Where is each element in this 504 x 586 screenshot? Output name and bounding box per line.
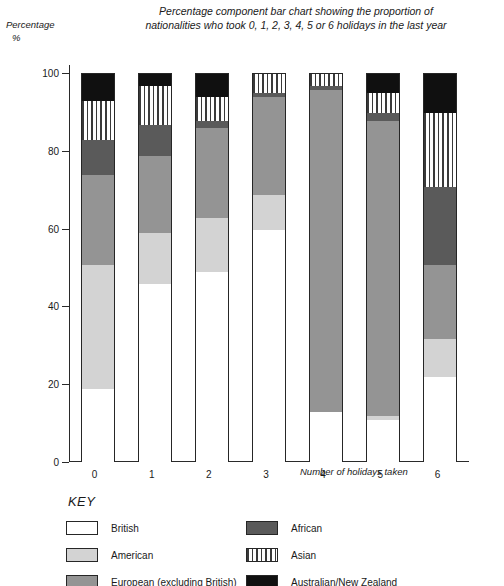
x-axis-label: Number of holidays taken <box>300 466 500 477</box>
y-tick-label: 80 <box>48 145 59 156</box>
bar-segment <box>196 272 228 463</box>
legend-item: African <box>246 516 397 540</box>
bar-segment <box>139 233 171 284</box>
y-tick-label: 40 <box>48 301 59 312</box>
stacked-bar <box>252 73 286 462</box>
bar-segment <box>82 74 114 101</box>
bar-segment <box>367 113 399 121</box>
bar-segment <box>82 389 114 463</box>
bar-segment <box>139 156 171 234</box>
bar-segment <box>367 420 399 463</box>
bar-segment <box>424 113 456 187</box>
legend-column-right: AfricanAsianAustralian/New Zealand <box>246 516 397 586</box>
bar-segment <box>253 74 285 93</box>
y-tick-mark <box>62 229 69 230</box>
x-tick-label: 1 <box>132 469 172 480</box>
ausnz-swatch <box>246 575 278 586</box>
legend-item-label: African <box>291 523 322 534</box>
bar-segment <box>310 412 342 463</box>
y-axis-unit: % <box>6 31 68 44</box>
legend-item-label: Asian <box>291 550 316 561</box>
asian-swatch <box>246 548 278 562</box>
legend-item: American <box>66 543 237 567</box>
legend-item: British <box>66 516 237 540</box>
y-axis-label: Percentage % <box>6 18 68 44</box>
bar-segment <box>367 74 399 93</box>
bar-segment <box>196 128 228 217</box>
y-tick-mark <box>62 151 69 152</box>
y-tick-label: 100 <box>42 68 59 79</box>
bar-segment <box>82 101 114 140</box>
y-tick-label: 20 <box>48 379 59 390</box>
y-tick-mark <box>62 462 69 463</box>
x-tick-label: 3 <box>246 469 286 480</box>
european-swatch <box>66 575 98 586</box>
american-swatch <box>66 548 98 562</box>
bar-segment <box>82 175 114 264</box>
bar-segment <box>196 121 228 129</box>
bar-segment <box>367 121 399 417</box>
bar-segment <box>253 97 285 194</box>
bar-segment <box>424 339 456 378</box>
legend-column-left: BritishAmericanEuropean (excluding Briti… <box>66 516 237 586</box>
bar-segment <box>424 74 456 113</box>
y-tick-label: 60 <box>48 223 59 234</box>
bar-segment <box>139 284 171 463</box>
bar-segment <box>253 195 285 230</box>
bar-segment <box>310 74 342 86</box>
legend-title: KEY <box>68 494 95 509</box>
legend-item: Australian/New Zealand <box>246 570 397 586</box>
legend-item-label: British <box>111 523 139 534</box>
bar-segment <box>424 377 456 463</box>
bar-segment <box>424 187 456 265</box>
chart-title-line-1: Percentage component bar chart showing t… <box>96 4 496 18</box>
y-tick-label: 0 <box>53 457 59 468</box>
y-tick-mark <box>62 384 69 385</box>
bar-segment <box>196 218 228 272</box>
x-tick-label: 0 <box>75 469 115 480</box>
bar-segment <box>424 265 456 339</box>
x-tick-label: 2 <box>189 469 229 480</box>
chart-page: Percentage component bar chart showing t… <box>0 0 504 586</box>
british-swatch <box>66 521 98 535</box>
legend-item: Asian <box>246 543 397 567</box>
legend-item-label: American <box>111 550 153 561</box>
plot-area: 020406080100 0123456 <box>69 73 469 462</box>
stacked-bar <box>423 73 457 462</box>
y-axis-line <box>69 65 70 462</box>
bar-segment <box>82 140 114 175</box>
chart-title: Percentage component bar chart showing t… <box>96 4 496 32</box>
stacked-bar <box>195 73 229 462</box>
bar-segment <box>196 97 228 120</box>
legend: KEY BritishAmericanEuropean (excluding B… <box>0 494 504 586</box>
legend-item-label: European (excluding British) <box>111 577 237 586</box>
bar-segment <box>139 86 171 125</box>
bar-segment <box>139 74 171 86</box>
bar-segment <box>82 265 114 389</box>
african-swatch <box>246 521 278 535</box>
y-tick-mark <box>62 73 69 74</box>
stacked-bar <box>366 73 400 462</box>
stacked-bar <box>138 73 172 462</box>
bar-segment <box>310 90 342 413</box>
bar-segment <box>367 93 399 112</box>
bar-segment <box>253 230 285 463</box>
stacked-bar <box>81 73 115 462</box>
bar-segment <box>139 125 171 156</box>
stacked-bar <box>309 73 343 462</box>
chart-title-line-2: nationalities who took 0, 1, 2, 3, 4, 5 … <box>96 18 496 32</box>
bar-segment <box>196 74 228 97</box>
y-axis-label-text: Percentage <box>6 19 55 30</box>
y-tick-mark <box>62 306 69 307</box>
legend-item: European (excluding British) <box>66 570 237 586</box>
legend-item-label: Australian/New Zealand <box>291 577 397 586</box>
